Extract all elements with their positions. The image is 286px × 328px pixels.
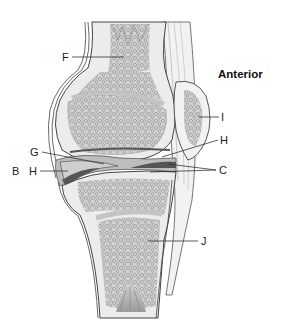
label-H-left-text: H [29, 165, 37, 177]
label-F-text: F [62, 51, 69, 63]
label-B-text: B [12, 165, 19, 177]
label-C-text: C [219, 164, 227, 176]
femur [48, 22, 175, 178]
orientation-label: Anterior [218, 68, 263, 80]
label-J-text: J [201, 235, 207, 247]
label-H-right-text: H [220, 134, 228, 146]
knee-joint-diagram: Anterior F G B H I H C J [0, 0, 286, 328]
label-B: B [12, 165, 19, 177]
label-G-text: G [30, 146, 39, 158]
tibia [58, 171, 176, 318]
label-I-text: I [221, 111, 224, 123]
